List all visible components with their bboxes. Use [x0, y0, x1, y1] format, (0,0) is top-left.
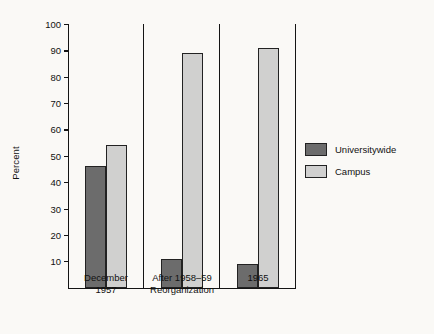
group-separator [143, 24, 144, 288]
legend-item-campus: Campus [305, 165, 430, 178]
bar-campus [182, 53, 203, 288]
bar-universitywide [85, 166, 106, 287]
y-tick-label: 30 [31, 203, 61, 214]
y-tick-label: 40 [31, 177, 61, 188]
x-axis-category-label: 1965 [220, 272, 296, 284]
y-tick-label: 50 [31, 150, 61, 161]
y-tick-mark [64, 182, 68, 183]
y-axis-line [68, 24, 69, 289]
x-label-line: 1965 [220, 272, 296, 284]
y-tick-label: 20 [31, 229, 61, 240]
y-tick-label: 100 [31, 19, 61, 30]
y-tick-mark [64, 156, 68, 157]
x-label-line: 1957 [68, 284, 144, 296]
group-separator [295, 24, 296, 288]
y-tick-label: 60 [31, 124, 61, 135]
y-tick-label: 80 [31, 71, 61, 82]
x-axis-category-label: After 1958–59Reorganization [144, 272, 220, 295]
legend-swatch-icon [305, 165, 327, 178]
group-separator [219, 24, 220, 288]
x-axis-category-label: December1957 [68, 272, 144, 295]
y-tick-label: 70 [31, 98, 61, 109]
bar-campus [106, 145, 127, 287]
y-tick-label: 10 [31, 256, 61, 267]
plot-area: 100908070605040302010 [68, 24, 296, 289]
legend-swatch-icon [305, 143, 327, 156]
y-tick-mark [64, 209, 68, 210]
y-tick-mark [64, 50, 68, 51]
bar-campus [258, 48, 279, 288]
y-tick-label: 90 [31, 45, 61, 56]
y-axis-title: Percent [10, 128, 21, 198]
legend: Universitywide Campus [305, 143, 430, 187]
x-label-line: December [68, 272, 144, 284]
bar-chart-figure: Percent 100908070605040302010 December19… [0, 0, 434, 334]
y-tick-mark [64, 235, 68, 236]
x-label-line: After 1958–59 [144, 272, 220, 284]
legend-item-universitywide: Universitywide [305, 143, 430, 156]
legend-item-label: Universitywide [335, 144, 396, 155]
y-tick-mark [64, 129, 68, 130]
y-tick-mark [64, 77, 68, 78]
y-tick-mark [64, 24, 68, 25]
y-tick-mark [64, 261, 68, 262]
legend-item-label: Campus [335, 166, 370, 177]
y-tick-mark [64, 103, 68, 104]
x-label-line: Reorganization [144, 284, 220, 296]
